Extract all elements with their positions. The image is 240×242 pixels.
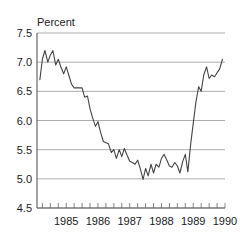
y-axis-tick-label: 7.0 <box>17 56 32 68</box>
x-axis-tick-label: 1985 <box>54 215 78 227</box>
x-axis-tick-labels-group: 198519861987198819891990 <box>54 215 237 227</box>
y-axis-tick-label: 5.0 <box>17 173 32 185</box>
data-line-percent <box>40 51 223 180</box>
gridlines-group <box>37 33 225 208</box>
y-axis-tick-label: 6.0 <box>17 115 32 127</box>
y-axis-tick-label: 7.5 <box>17 27 32 39</box>
y-axis-tick-labels-group: 7.57.06.56.05.55.04.5 <box>17 27 32 214</box>
x-axis-ticks-group <box>42 203 225 208</box>
line-chart-svg: 7.57.06.56.05.55.04.5 198519861987198819… <box>0 0 240 242</box>
chart-container: Percent 7.57.06.56.05.55.04.5 1985198619… <box>0 0 240 242</box>
x-axis-tick-label: 1990 <box>213 215 237 227</box>
x-axis-tick-label: 1986 <box>86 215 110 227</box>
y-axis-tick-label: 6.5 <box>17 85 32 97</box>
y-axis-tick-label: 5.5 <box>17 144 32 156</box>
data-series-group <box>40 51 223 180</box>
x-axis-tick-label: 1989 <box>181 215 205 227</box>
y-axis-tick-label: 4.5 <box>17 202 32 214</box>
plot-area: 7.57.06.56.05.55.04.5 198519861987198819… <box>0 0 240 242</box>
x-axis-tick-label: 1987 <box>117 215 141 227</box>
x-axis-tick-label: 1988 <box>149 215 173 227</box>
